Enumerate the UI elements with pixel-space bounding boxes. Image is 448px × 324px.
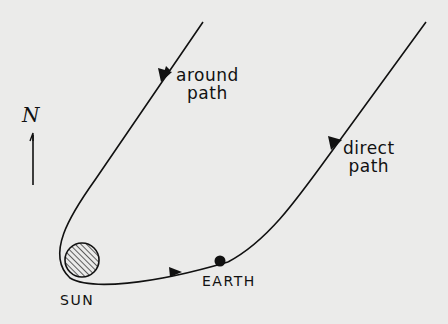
around-path-label: around path xyxy=(176,66,239,102)
diagram-canvas: N around path direct path SUN EARTH xyxy=(0,0,448,324)
direct-path-label-line1: direct xyxy=(343,139,395,157)
north-label: N xyxy=(22,103,40,127)
sun-label: SUN xyxy=(60,291,94,309)
direct-path-label-line2: path xyxy=(343,157,395,175)
earth-icon xyxy=(215,256,226,267)
direct-path-label: direct path xyxy=(343,139,395,175)
sun-icon xyxy=(65,243,99,277)
north-arrow-icon xyxy=(30,133,33,141)
around-path-label-line2: path xyxy=(176,84,239,102)
around-path-label-line1: around xyxy=(176,66,239,84)
direct-path-line xyxy=(228,22,426,262)
earth-label: EARTH xyxy=(202,272,256,290)
